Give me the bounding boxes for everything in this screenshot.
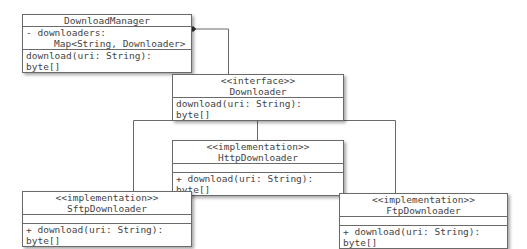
interface-downloader: <<interface>> Downloader download(uri: S…	[172, 74, 344, 121]
stereotype: <<implementation>>	[26, 192, 188, 203]
class-header: <<implementation>> HttpDownloader	[173, 141, 343, 163]
attribute-type: Map<String, Downloader>	[26, 38, 188, 49]
attributes-section	[340, 216, 507, 225]
class-sftp-downloader: <<implementation>> SftpDownloader + down…	[22, 191, 192, 247]
class-name: FtpDownloader	[343, 205, 504, 216]
stereotype: <<interface>>	[176, 75, 340, 86]
attribute-label: - downloaders:	[26, 27, 188, 38]
methods-section: + download(uri: String): byte[]	[173, 172, 343, 195]
method: + download(uri: String): byte[]	[176, 173, 340, 195]
class-header: <<implementation>> SftpDownloader	[23, 192, 191, 214]
composition-line	[196, 29, 229, 74]
class-name: SftpDownloader	[26, 203, 188, 214]
methods-section: + download(uri: String): byte[]	[340, 225, 507, 248]
method: + download(uri: String): byte[]	[26, 224, 188, 246]
method: download(uri: String): byte[]	[26, 50, 188, 72]
attributes-section	[173, 163, 343, 172]
methods-section: download(uri: String): byte[]	[23, 49, 191, 72]
attributes-section	[23, 214, 191, 223]
attributes-section: - downloaders: Map<String, Downloader>	[23, 26, 191, 49]
method: download(uri: String): byte[]	[176, 98, 340, 120]
class-download-manager: DownloadManager - downloaders: Map<Strin…	[22, 14, 192, 73]
stereotype: <<implementation>>	[176, 141, 340, 152]
methods-section: download(uri: String): byte[]	[173, 97, 343, 120]
class-name: DownloadManager	[23, 15, 191, 26]
class-name: HttpDownloader	[176, 152, 340, 163]
method: + download(uri: String): byte[]	[343, 226, 504, 248]
methods-section: + download(uri: String): byte[]	[23, 223, 191, 246]
class-name: Downloader	[176, 86, 340, 97]
class-header: <<implementation>> FtpDownloader	[340, 194, 507, 216]
class-ftp-downloader: <<implementation>> FtpDownloader + downl…	[339, 193, 508, 249]
class-http-downloader: <<implementation>> HttpDownloader + down…	[172, 140, 344, 196]
class-header: <<interface>> Downloader	[173, 75, 343, 97]
stereotype: <<implementation>>	[343, 194, 504, 205]
